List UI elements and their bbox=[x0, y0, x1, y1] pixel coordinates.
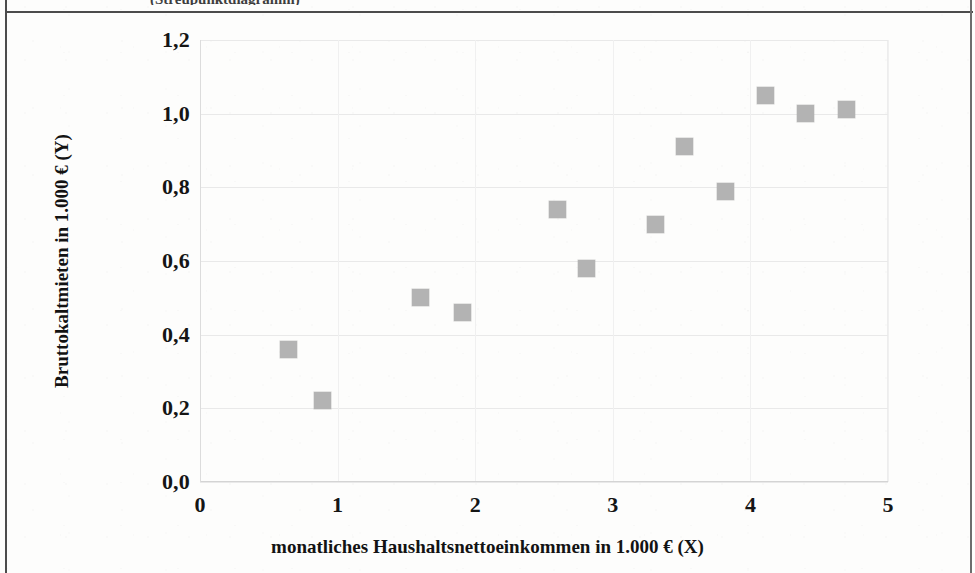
gridline-vertical bbox=[338, 40, 339, 482]
data-point-marker bbox=[797, 105, 814, 122]
gridline-horizontal bbox=[200, 114, 888, 115]
gridline-vertical bbox=[750, 40, 751, 482]
data-point-marker bbox=[549, 201, 566, 218]
data-point-marker bbox=[717, 183, 734, 200]
scanned-page: (Streupunktdiagramm) 0,00,20,40,60,81,01… bbox=[0, 0, 975, 573]
x-axis-tick-label: 4 bbox=[745, 492, 756, 518]
gridline-horizontal bbox=[200, 261, 888, 262]
y-axis-tick-label: 0,8 bbox=[162, 174, 190, 200]
x-axis-title: monatliches Haushaltsnettoeinkommen in 1… bbox=[0, 536, 975, 558]
gridline-vertical bbox=[888, 40, 889, 482]
data-point-marker bbox=[838, 101, 855, 118]
gridline-vertical bbox=[613, 40, 614, 482]
data-point-marker bbox=[314, 392, 331, 409]
gridline-horizontal bbox=[200, 335, 888, 336]
data-point-marker bbox=[280, 341, 297, 358]
gridline-horizontal bbox=[200, 40, 888, 41]
y-axis-line bbox=[200, 40, 201, 482]
x-axis-line bbox=[200, 481, 888, 482]
gridline-horizontal bbox=[200, 187, 888, 188]
y-axis-tick-label: 0,4 bbox=[162, 322, 190, 348]
y-axis-tick-label: 1,0 bbox=[162, 101, 190, 127]
data-point-marker bbox=[412, 289, 429, 306]
data-point-marker bbox=[578, 260, 595, 277]
y-axis-tick-label: 0,6 bbox=[162, 248, 190, 274]
data-point-marker bbox=[676, 138, 693, 155]
x-axis-tick-label: 5 bbox=[883, 492, 894, 518]
y-axis-title: Bruttokaltmieten in 1.000 € (Y) bbox=[51, 134, 73, 388]
data-point-marker bbox=[454, 304, 471, 321]
y-axis-tick-label: 0,2 bbox=[162, 395, 190, 421]
plot-area bbox=[200, 40, 888, 482]
clipped-caption-text: (Streupunktdiagramm) bbox=[150, 0, 850, 5]
x-axis-tick-label: 2 bbox=[470, 492, 481, 518]
x-axis-tick-label: 3 bbox=[607, 492, 618, 518]
gridline-vertical bbox=[475, 40, 476, 482]
x-axis-tick-label: 1 bbox=[332, 492, 343, 518]
y-axis-tick-labels: 0,00,20,40,60,81,01,2 bbox=[143, 40, 190, 482]
x-axis-tick-labels: 012345 bbox=[0, 492, 975, 522]
data-point-marker bbox=[757, 87, 774, 104]
x-axis-tick-label: 0 bbox=[195, 492, 206, 518]
scatter-chart: 0,00,20,40,60,81,01,2 012345 monatliches… bbox=[0, 13, 975, 573]
gridline-horizontal bbox=[200, 408, 888, 409]
y-axis-title-container: Bruttokaltmieten in 1.000 € (Y) bbox=[44, 40, 80, 482]
gridline-horizontal bbox=[200, 482, 888, 483]
data-point-marker bbox=[647, 216, 664, 233]
y-axis-tick-label: 1,2 bbox=[162, 27, 190, 53]
